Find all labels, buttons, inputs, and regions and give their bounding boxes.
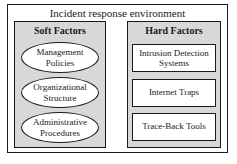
hard-factors-title: Hard Factors [145, 23, 203, 38]
diagram-canvas: Incident response environment Soft Facto… [0, 0, 237, 164]
soft-factors-panel: Soft Factors Management Policies Organiz… [14, 21, 106, 148]
diagram-title: Incident response environment [8, 5, 227, 21]
soft-factor-node-administrative-procedures: Administrative Procedures [21, 112, 99, 143]
hard-factors-panel: Hard Factors Intrusion Detection Systems… [127, 21, 221, 148]
incident-response-environment-box: Incident response environment Soft Facto… [7, 4, 228, 153]
hard-factor-node-intrusion-detection-systems: Intrusion Detection Systems [132, 44, 216, 72]
soft-factors-title: Soft Factors [34, 23, 86, 38]
soft-factor-node-organizational-structure: Organizational Structure [21, 77, 99, 108]
hard-factor-node-trace-back-tools: Trace-Back Tools [132, 113, 216, 141]
hard-factor-node-internet-traps: Internet Traps [132, 79, 216, 107]
soft-factors-nodes: Management Policies Organizational Struc… [15, 38, 105, 147]
soft-factor-node-management-policies: Management Policies [21, 42, 99, 73]
hard-factors-nodes: Intrusion Detection Systems Internet Tra… [128, 38, 220, 147]
panels-row: Soft Factors Management Policies Organiz… [8, 21, 227, 148]
